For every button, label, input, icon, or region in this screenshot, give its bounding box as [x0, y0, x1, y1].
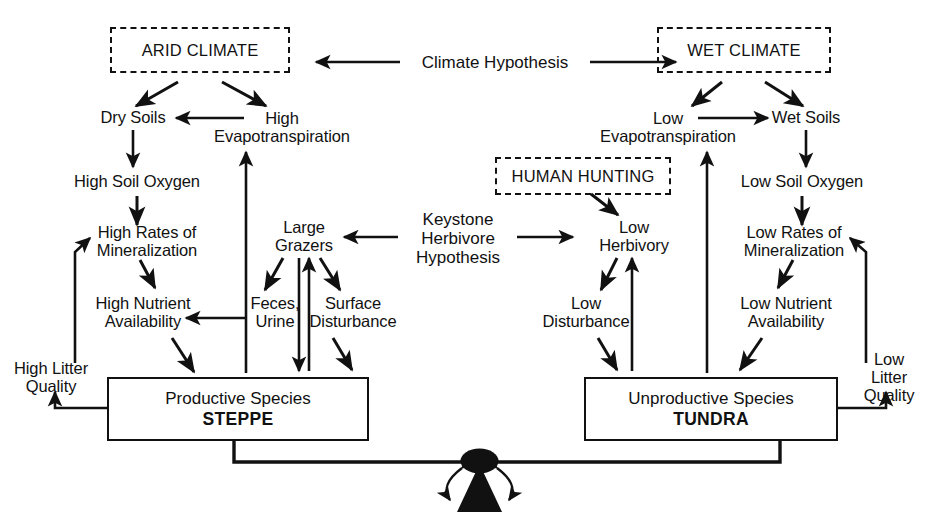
arrow-arid-to-drysoils: [136, 82, 178, 106]
arrow-lowlitter-to-lowmineralization: [850, 238, 866, 363]
arrow-wet-to-lowevapo: [692, 82, 722, 106]
arid-climate-box[interactable]: ARID CLIMATE: [110, 27, 290, 73]
low-litter-quality-label: Low Litter Quality: [864, 351, 915, 404]
high-evapotranspiration-label: High Evapotranspiration: [214, 110, 350, 146]
diagram-canvas: ARID CLIMATE WET CLIMATE Climate Hypothe…: [0, 0, 934, 528]
tundra-box-line1: Unproductive Species: [628, 389, 793, 409]
human-hunting-box[interactable]: HUMAN HUNTING: [495, 157, 671, 195]
fulcrum-pivot: [461, 449, 499, 474]
arrow-grazers-to-feces: [265, 258, 283, 290]
climate-hypothesis-label: Climate Hypothesis: [422, 53, 568, 72]
arrow-lowherbivory-to-lowdisturbance: [601, 258, 617, 290]
arrow-arid-to-evapo: [222, 82, 266, 106]
keystone-herbivore-hypothesis-label: Keystone Herbivore Hypothesis: [416, 210, 500, 267]
large-grazers-label: Large Grazers: [275, 219, 333, 255]
low-evapotranspiration-label: Low Evapotranspiration: [600, 110, 736, 146]
tundra-box-line2: TUNDRA: [673, 409, 749, 430]
arid-climate-label: ARID CLIMATE: [142, 41, 259, 60]
high-nutrient-availability-label: High Nutrient Availability: [96, 295, 191, 331]
human-hunting-label: HUMAN HUNTING: [512, 167, 655, 186]
low-soil-oxygen-label: Low Soil Oxygen: [741, 173, 863, 191]
wet-climate-box[interactable]: WET CLIMATE: [657, 27, 831, 73]
steppe-box[interactable]: Productive Species STEPPE: [107, 377, 369, 441]
balance-beam: [234, 438, 780, 462]
wet-soils-label: Wet Soils: [772, 109, 840, 127]
high-litter-quality-label: High Litter Quality: [14, 360, 88, 396]
arrow-mineralization-to-nutrient: [140, 260, 155, 288]
low-herbivory-label: Low Herbivory: [599, 219, 669, 255]
surface-disturbance-label: Surface Disturbance: [310, 295, 397, 331]
steppe-box-line2: STEPPE: [203, 409, 274, 430]
dry-soils-label: Dry Soils: [100, 109, 165, 127]
high-soil-oxygen-label: High Soil Oxygen: [74, 173, 200, 191]
feces-urine-label: Feces, Urine: [251, 295, 300, 331]
arrow-wet-to-wetsoils: [765, 82, 803, 106]
low-disturbance-label: Low Disturbance: [543, 295, 630, 331]
arrow-nutrient-to-steppe: [172, 338, 194, 372]
low-nutrient-availability-label: Low Nutrient Availability: [740, 295, 831, 331]
arrow-disturbance-to-steppe: [333, 338, 352, 370]
low-rates-mineralization-label: Low Rates of Mineralization: [744, 224, 844, 260]
arrow-grazers-to-disturbance: [320, 258, 340, 290]
arrow-litter-to-mineralization: [75, 238, 90, 363]
arrow-hunting-to-lowherbivory: [591, 194, 618, 215]
wet-climate-label: WET CLIMATE: [687, 41, 800, 60]
arrow-lownutrient-to-tundra: [740, 338, 762, 370]
tundra-box[interactable]: Unproductive Species TUNDRA: [584, 377, 838, 441]
fulcrum-arrow-right: [497, 468, 513, 500]
arrow-lowmineralization-to-lownutrient: [778, 260, 793, 288]
fulcrum-arrow-left: [446, 468, 462, 500]
steppe-box-line1: Productive Species: [165, 389, 311, 409]
arrow-lowdisturbance-to-tundra: [598, 338, 617, 370]
high-rates-mineralization-label: High Rates of Mineralization: [97, 224, 197, 260]
